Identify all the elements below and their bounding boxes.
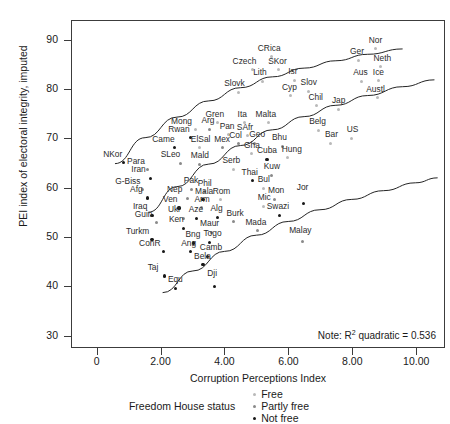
data-point-label: Czech bbox=[233, 57, 257, 66]
y-tick-mark bbox=[64, 40, 71, 41]
x-tick-mark bbox=[97, 348, 98, 355]
data-point-label: CRica bbox=[258, 44, 281, 53]
x-tick-label: 8.00 bbox=[330, 356, 374, 367]
data-point-label: Pak bbox=[184, 176, 198, 185]
data-point-label: Col bbox=[229, 131, 242, 140]
data-point[interactable] bbox=[360, 80, 363, 83]
legend-item-notfree[interactable]: Not free bbox=[253, 412, 309, 424]
data-point[interactable] bbox=[122, 161, 125, 164]
data-point[interactable] bbox=[208, 128, 211, 131]
data-point-label: Ita bbox=[238, 110, 247, 119]
data-point-label: Jor bbox=[297, 183, 309, 192]
data-point-label: Belg bbox=[309, 117, 326, 126]
legend-marker-icon bbox=[253, 417, 256, 420]
plot-area: NKorParaIranG-BissAfgIraqGuinTurkmConRTa… bbox=[71, 20, 445, 348]
data-point-label: Mald bbox=[191, 151, 209, 160]
data-point[interactable] bbox=[237, 91, 240, 94]
data-point-label: Aus bbox=[353, 68, 367, 77]
data-point-label: Alg bbox=[210, 204, 222, 213]
data-point-label: Dji bbox=[207, 269, 217, 278]
legend: Freedom House status FreePartly freeNot … bbox=[0, 388, 450, 424]
legend-marker-icon bbox=[253, 393, 256, 396]
data-point-label: Mex bbox=[214, 135, 230, 144]
y-tick-label: 30 bbox=[28, 330, 58, 340]
data-point-label: Lith bbox=[253, 68, 267, 77]
data-point-label: Taj bbox=[148, 263, 159, 272]
data-point[interactable] bbox=[357, 59, 360, 62]
data-point-label: Nep bbox=[167, 185, 182, 194]
legend-label: Partly free bbox=[261, 400, 309, 412]
y-tick-mark bbox=[64, 188, 71, 189]
legend-label: Free bbox=[261, 388, 283, 400]
data-point[interactable] bbox=[194, 128, 197, 131]
y-tick-label: 80 bbox=[28, 83, 58, 93]
data-point-label: Came bbox=[152, 135, 174, 144]
data-point[interactable] bbox=[179, 162, 182, 165]
data-point-label: Swazi bbox=[267, 202, 289, 211]
data-point-label: Isr bbox=[288, 67, 297, 76]
data-point-label: Slov bbox=[301, 78, 317, 87]
data-point-label: Afg bbox=[130, 185, 143, 194]
data-point-label: Cuba bbox=[257, 146, 277, 155]
y-tick-mark bbox=[64, 336, 71, 337]
data-point-label: US bbox=[347, 125, 359, 134]
x-tick-label: 2.00 bbox=[139, 356, 183, 367]
data-point[interactable] bbox=[186, 197, 189, 200]
y-tick-mark bbox=[64, 286, 71, 287]
data-point[interactable] bbox=[163, 274, 166, 277]
x-tick-mark bbox=[224, 348, 225, 355]
x-tick-label: 0 bbox=[75, 356, 119, 367]
legend-marker-icon bbox=[253, 405, 256, 408]
data-point[interactable] bbox=[201, 263, 204, 266]
data-point-label: Rom bbox=[213, 187, 231, 196]
data-point-label: Bul bbox=[258, 175, 270, 184]
data-point-label: Rwan bbox=[168, 125, 189, 134]
legend-item-partly[interactable]: Partly free bbox=[253, 400, 309, 412]
legend-label: Not free bbox=[261, 412, 298, 424]
data-point[interactable] bbox=[261, 80, 264, 83]
data-point-label: Ven bbox=[163, 195, 177, 204]
data-point[interactable] bbox=[301, 240, 304, 243]
data-point-label: Nor bbox=[369, 36, 383, 45]
data-point-label: Guin bbox=[135, 210, 153, 219]
data-point-label: ElSal bbox=[191, 135, 211, 144]
data-point[interactable] bbox=[149, 177, 152, 180]
data-point[interactable] bbox=[250, 152, 253, 155]
data-point-label: Chil bbox=[309, 93, 323, 102]
y-tick-label: 60 bbox=[28, 182, 58, 192]
x-axis-title: Corruption Perceptions Index bbox=[71, 372, 445, 384]
data-point-label: Arm bbox=[194, 195, 209, 204]
data-point-label: Maur bbox=[200, 219, 219, 228]
y-tick-label: 50 bbox=[28, 231, 58, 241]
y-tick-mark bbox=[64, 89, 71, 90]
data-point-label: Burk bbox=[226, 209, 243, 218]
data-point-label: Ger bbox=[350, 47, 364, 56]
data-point-label: Geo bbox=[249, 130, 265, 139]
data-point-label: Austl bbox=[366, 85, 385, 94]
y-tick-label: 70 bbox=[28, 132, 58, 142]
data-point[interactable] bbox=[317, 129, 320, 132]
x-tick-label: 6.00 bbox=[266, 356, 310, 367]
data-point-label: Ukr bbox=[168, 205, 181, 214]
note-annotation: Note: R2 quadratic = 0.536 bbox=[318, 329, 436, 341]
data-point-label: ConR bbox=[139, 239, 160, 248]
data-point-label: NKor bbox=[103, 150, 122, 159]
data-point-label: Ang bbox=[181, 239, 196, 248]
data-point-label: SKor bbox=[268, 57, 287, 66]
data-point-label: Iran bbox=[131, 165, 145, 174]
y-tick-label: 90 bbox=[28, 34, 58, 44]
data-point-label: Gren bbox=[205, 110, 224, 119]
data-point[interactable] bbox=[265, 158, 268, 161]
data-point[interactable] bbox=[256, 229, 259, 232]
data-point-label: Neth bbox=[373, 54, 391, 63]
legend-title: Freedom House status bbox=[129, 400, 235, 412]
data-point[interactable] bbox=[146, 196, 149, 199]
legend-item-free[interactable]: Free bbox=[253, 388, 309, 400]
y-tick-label: 40 bbox=[28, 280, 58, 290]
data-point-label: Cyp bbox=[282, 83, 297, 92]
data-point-label: Ken bbox=[169, 215, 184, 224]
x-tick-mark bbox=[288, 348, 289, 355]
data-point[interactable] bbox=[232, 168, 235, 171]
data-point-label: Thai bbox=[242, 168, 258, 177]
